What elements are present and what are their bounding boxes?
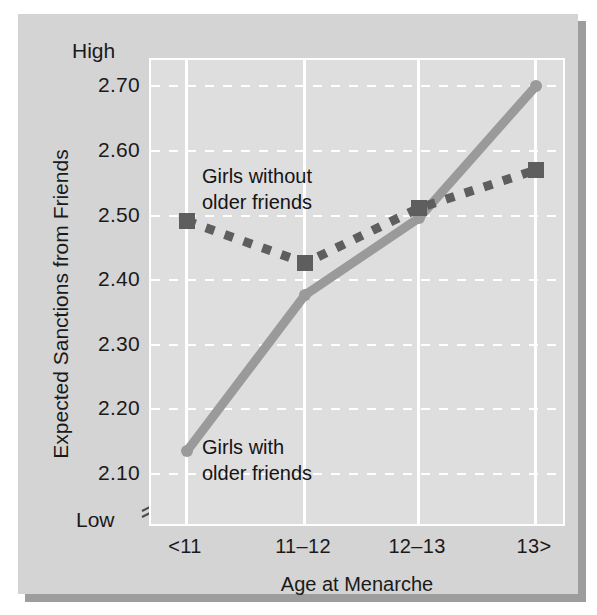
datapoint-with-13gt bbox=[530, 80, 542, 92]
y-tick-2-40: 2.40 bbox=[62, 267, 140, 291]
datapoint-without-lt11 bbox=[179, 213, 195, 229]
datapoint-without-11-12 bbox=[297, 255, 313, 271]
series-girls-with-older-friends bbox=[181, 80, 542, 457]
x-tick-12-13: 12–13 bbox=[362, 535, 472, 558]
datapoint-with-lt11 bbox=[181, 445, 193, 457]
annotation-girls-without-older-friends: Girls without older friends bbox=[202, 164, 312, 215]
y-axis-tick-labels: 2.70 2.60 2.50 2.40 2.30 2.20 2.10 bbox=[62, 14, 140, 615]
x-tick-lt11: <11 bbox=[130, 535, 240, 558]
annotation-with-line1: Girls with bbox=[202, 435, 312, 461]
y-tick-2-60: 2.60 bbox=[62, 138, 140, 162]
y-tick-2-70: 2.70 bbox=[62, 73, 140, 97]
y-tick-2-50: 2.50 bbox=[62, 203, 140, 227]
x-tick-11-12: 11–12 bbox=[248, 535, 358, 558]
datapoint-with-11-12 bbox=[299, 289, 311, 301]
y-tick-2-30: 2.30 bbox=[62, 332, 140, 356]
y-tick-2-20: 2.20 bbox=[62, 396, 140, 420]
x-tick-13gt: 13> bbox=[479, 535, 589, 558]
figure-panel: High Low Expected Sanctions from Friends… bbox=[18, 14, 578, 594]
annotation-with-line2: older friends bbox=[202, 461, 312, 487]
annotation-without-line1: Girls without bbox=[202, 164, 312, 190]
datapoint-without-12-13 bbox=[411, 200, 427, 216]
series-line-with-older-friends bbox=[187, 86, 536, 451]
x-axis-title: Age at Menarche bbox=[151, 573, 563, 596]
datapoint-without-13gt bbox=[528, 162, 544, 178]
annotation-girls-with-older-friends: Girls with older friends bbox=[202, 435, 312, 486]
annotation-without-line2: older friends bbox=[202, 190, 312, 216]
y-tick-2-10: 2.10 bbox=[62, 461, 140, 485]
